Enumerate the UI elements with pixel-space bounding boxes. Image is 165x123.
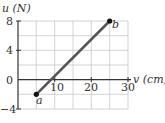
y-tick-8: 8 [6,15,13,28]
y-tick-0: 0 [6,74,13,87]
chart: u (N) 8 4 0 −4 10 20 30 v (cm) a b [0,0,165,123]
point-a-label: a [36,94,43,107]
x-tick-10: 10 [50,81,64,94]
point-b-label: b [112,18,119,31]
x-axis-label: v (cm) [133,73,165,86]
y-tick-neg4: −4 [0,103,16,116]
svg-text:u (N): u (N) [2,2,31,15]
y-tick-4: 4 [6,44,13,57]
x-tick-20: 20 [84,81,98,94]
y-axis-label: u (N) [2,2,31,15]
